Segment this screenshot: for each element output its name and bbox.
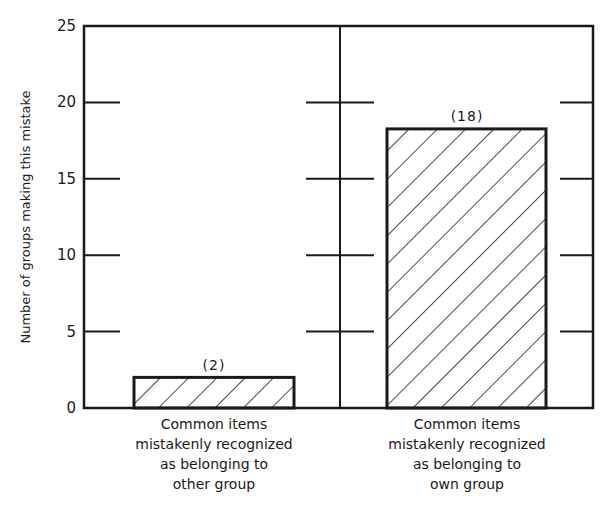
y-tick-labels: 0 5 10 15 20 25 <box>57 17 76 417</box>
category-label-own-group: Common items mistakenly recognized as be… <box>357 414 577 494</box>
bar-value-label-other: (2) <box>203 357 226 373</box>
y-tick-5: 5 <box>66 323 76 341</box>
category-line: as belonging to <box>104 454 324 474</box>
category-line: as belonging to <box>357 454 577 474</box>
bar-value-label-own: (18) <box>451 108 484 124</box>
y-axis-label: Number of groups making this mistake <box>18 90 33 343</box>
y-tick-10: 10 <box>57 246 76 264</box>
y-tick-15: 15 <box>57 170 76 188</box>
y-tick-0: 0 <box>66 399 76 417</box>
bar-own-group <box>387 129 546 408</box>
bar-other-group <box>134 377 294 408</box>
category-line: other group <box>104 474 324 494</box>
y-tick-25: 25 <box>57 17 76 35</box>
category-line: mistakenly recognized <box>357 434 577 454</box>
category-line: Common items <box>104 414 324 434</box>
category-line: Common items <box>357 414 577 434</box>
category-line: own group <box>357 474 577 494</box>
category-line: mistakenly recognized <box>104 434 324 454</box>
y-tick-20: 20 <box>57 93 76 111</box>
category-label-other-group: Common items mistakenly recognized as be… <box>104 414 324 494</box>
